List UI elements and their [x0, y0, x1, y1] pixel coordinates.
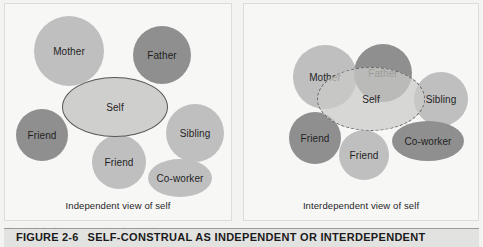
- node-friend-bottom[interactable]: Friend: [339, 130, 389, 180]
- node-mother[interactable]: Mother: [34, 16, 104, 86]
- diagram-independent: Mother Father Friend Sibling Friend Co-w…: [5, 4, 231, 196]
- node-co-worker[interactable]: Co-worker: [148, 159, 212, 197]
- caption-independent: Independent view of self: [5, 200, 231, 211]
- figure-number: FIGURE 2-6: [16, 229, 79, 246]
- panel-independent-view: Mother Father Friend Sibling Friend Co-w…: [4, 3, 232, 221]
- caption-interdependent: Interdependent view of self: [244, 200, 478, 211]
- node-self[interactable]: Self: [62, 77, 168, 137]
- panel-interdependent-view: Mother Father Sibling Friend Friend Co-w…: [243, 3, 479, 221]
- node-self[interactable]: Self: [317, 67, 425, 131]
- node-friend-bottom[interactable]: Friend: [92, 135, 146, 189]
- node-co-worker[interactable]: Co-worker: [392, 121, 464, 161]
- node-friend-left[interactable]: Friend: [16, 109, 68, 161]
- figure-caption-bar: FIGURE 2-6 SELF-CONSTRUAL AS INDEPENDENT…: [4, 228, 479, 247]
- diagram-interdependent: Mother Father Sibling Friend Friend Co-w…: [244, 4, 478, 196]
- figure-title: SELF-CONSTRUAL AS INDEPENDENT OR INTERDE…: [88, 229, 426, 246]
- figure-self-construal: Mother Father Friend Sibling Friend Co-w…: [0, 0, 483, 247]
- node-sibling[interactable]: Sibling: [166, 104, 224, 162]
- node-father[interactable]: Father: [133, 26, 191, 84]
